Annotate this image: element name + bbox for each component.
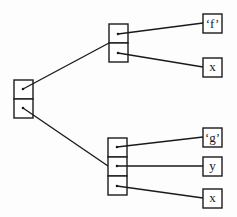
edge-upper-to-f [118,23,203,34]
leaf-label: y [209,158,216,173]
dot-icon [116,165,119,168]
edge-root-to-upper [23,43,109,89]
leaf-x-upper: x [203,58,222,77]
diagram-svg: ‘f’ x ‘g’ y x [0,0,237,217]
edge-lower-to-g [117,137,203,147]
leaf-y: y [203,157,222,176]
leaf-f: ‘f’ [203,14,222,33]
dot-icon [22,107,25,110]
leaf-label: ‘f’ [206,16,220,31]
dot-icon [22,88,25,91]
upper-node [109,24,128,62]
dot-icon [117,52,120,55]
edge-upper-to-x [118,53,203,67]
dot-icon [117,33,120,36]
dot-icon [116,185,119,188]
dot-icon [116,146,119,149]
leaf-label: x [209,190,216,205]
pointer-tree-diagram: ‘f’ x ‘g’ y x [0,0,237,217]
edge-lower-to-x [117,186,203,198]
leaf-x-lower: x [203,189,222,208]
leaf-g: ‘g’ [203,128,222,147]
edge-root-to-lower [23,108,108,166]
leaf-label: x [209,59,216,74]
leaf-label: ‘g’ [205,130,220,145]
